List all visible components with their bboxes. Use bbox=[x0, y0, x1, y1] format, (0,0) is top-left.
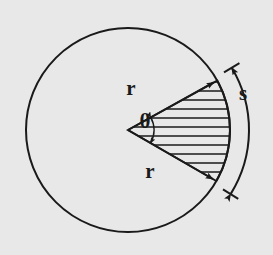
geometry-diagram: r r θ s bbox=[0, 0, 273, 255]
label-arc-length-s: s bbox=[239, 81, 247, 105]
circle-sector-figure: r r θ s bbox=[0, 0, 273, 255]
label-radius-upper: r bbox=[126, 76, 135, 100]
label-radius-lower: r bbox=[145, 159, 154, 183]
label-angle-theta: θ bbox=[140, 109, 151, 133]
